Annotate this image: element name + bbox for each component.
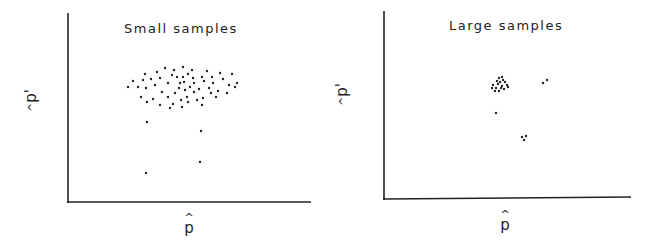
data-point bbox=[521, 136, 523, 138]
large-samples-panel: Large samples ^p' ^p bbox=[0, 0, 663, 248]
y-label-letter: p bbox=[333, 87, 351, 97]
data-point bbox=[546, 79, 548, 81]
data-point bbox=[500, 87, 502, 89]
data-point bbox=[497, 83, 499, 85]
x-label-letter: p bbox=[500, 216, 510, 234]
hat-symbol: ^ bbox=[337, 97, 350, 106]
data-point bbox=[504, 81, 506, 83]
data-point bbox=[542, 82, 544, 84]
data-point bbox=[494, 90, 496, 92]
y-axis-label: ^p' bbox=[335, 83, 350, 107]
prime-symbol: ' bbox=[333, 83, 351, 87]
data-points bbox=[491, 76, 548, 141]
data-point bbox=[496, 80, 498, 82]
large-samples-plot bbox=[0, 0, 663, 248]
data-point bbox=[495, 87, 497, 89]
data-point bbox=[523, 139, 525, 141]
data-point bbox=[492, 84, 494, 86]
x-axis bbox=[383, 197, 631, 199]
chart-title: Large samples bbox=[449, 18, 563, 33]
data-point bbox=[525, 135, 527, 137]
data-point bbox=[498, 77, 500, 79]
data-point bbox=[499, 81, 501, 83]
data-point bbox=[502, 79, 504, 81]
data-point bbox=[503, 88, 505, 90]
data-point bbox=[507, 86, 509, 88]
data-point bbox=[495, 112, 497, 114]
x-axis-label: ^p bbox=[495, 212, 515, 233]
data-point bbox=[491, 87, 493, 89]
data-point bbox=[501, 76, 503, 78]
data-point bbox=[498, 90, 500, 92]
